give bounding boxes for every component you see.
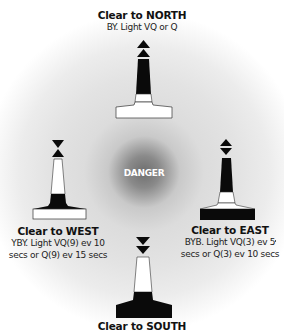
danger-label: DANGER	[118, 168, 170, 178]
south-topmark-lower-cone-icon	[136, 246, 150, 254]
west-base-black-band	[33, 203, 86, 209]
west-body-yellow-top	[51, 159, 65, 194]
east-buoy	[200, 139, 255, 220]
north-body-yellow	[135, 94, 152, 102]
north-buoy	[116, 40, 172, 118]
south-label: Clear to SOUTH	[92, 320, 192, 332]
north-base	[116, 102, 172, 118]
cardinal-buoys-diagram	[0, 0, 284, 333]
north-description: BY. Light VQ or Q	[92, 21, 192, 33]
west-topmark-upper-cone-icon	[52, 140, 64, 148]
east-body-yellow	[218, 192, 235, 203]
north-body-black	[136, 59, 151, 94]
west-title: Clear to WEST	[0, 225, 116, 237]
west-description-line2: secs or Q(9) ev 15 secs	[0, 249, 116, 261]
north-topmark-upper-cone-icon	[137, 40, 150, 48]
west-topmark-lower-cone-icon	[52, 149, 64, 157]
east-body-black-top	[220, 158, 233, 192]
north-label: Clear to NORTH BY. Light VQ or Q	[92, 9, 192, 33]
east-base-upper	[200, 203, 255, 209]
west-label: Clear to WEST YBY. Light VQ(9) ev 10 sec…	[0, 225, 116, 261]
west-buoy	[33, 140, 86, 219]
south-buoy	[116, 237, 172, 318]
west-description-line1: YBY. Light VQ(9) ev 10	[0, 237, 116, 249]
east-label: Clear to EAST BYB. Light VQ(3) ev 5 secs…	[176, 224, 284, 260]
south-body-yellow	[134, 257, 152, 292]
west-body-black	[50, 194, 66, 203]
east-description-line1: BYB. Light VQ(3) ev 5	[176, 236, 284, 248]
west-base-yellow	[33, 209, 86, 219]
speck-mark	[275, 240, 276, 242]
north-title: Clear to NORTH	[92, 9, 192, 21]
east-base-black	[200, 209, 255, 220]
east-topmark-upper-cone-icon	[220, 139, 232, 146]
east-title: Clear to EAST	[176, 224, 284, 236]
north-topmark-lower-cone-icon	[137, 49, 150, 57]
south-body-black	[116, 292, 172, 318]
east-topmark-lower-cone-icon	[220, 148, 232, 155]
south-title: Clear to SOUTH	[92, 320, 192, 332]
east-description-line2: secs or Q(3) ev 10 secs	[176, 248, 284, 260]
south-topmark-upper-cone-icon	[136, 237, 150, 245]
